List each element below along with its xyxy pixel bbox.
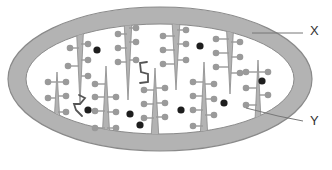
mitochondrion-diagram: X Y bbox=[0, 0, 332, 170]
label-x: X bbox=[310, 24, 319, 37]
mitochondrion-illustration bbox=[0, 0, 332, 170]
label-y: Y bbox=[310, 114, 319, 127]
